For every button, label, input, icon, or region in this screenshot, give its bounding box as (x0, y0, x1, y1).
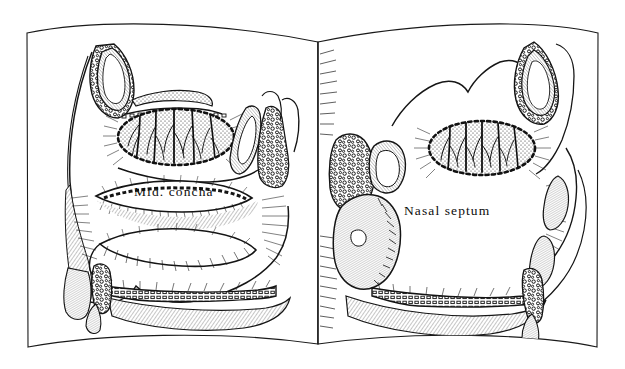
right-page: Nasal septum (318, 24, 598, 347)
right-label-nasal-septum: Nasal septum (404, 203, 490, 218)
anatomy-plate: Mid. concha (0, 0, 625, 369)
left-label-mid-concha: Mid. concha (134, 184, 214, 199)
olfactory-region-right (429, 121, 535, 175)
nostril-ala (64, 268, 91, 320)
left-page: Mid. concha (27, 24, 318, 347)
olfactory-region (118, 109, 234, 165)
